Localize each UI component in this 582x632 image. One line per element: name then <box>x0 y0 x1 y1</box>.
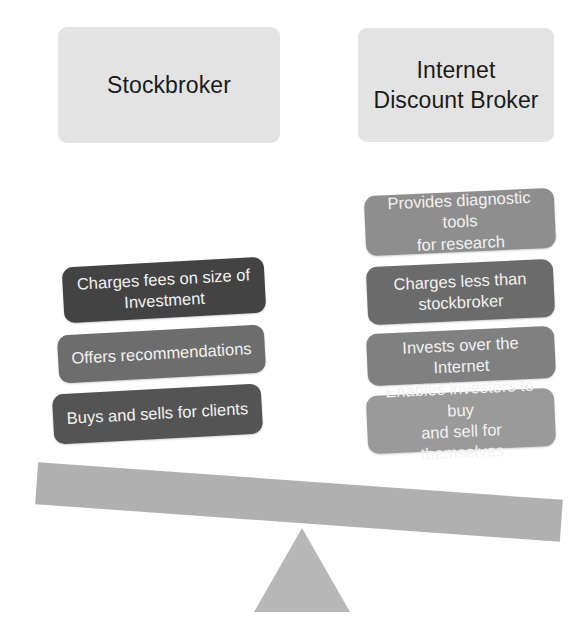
chip-right-3-line-2: and sell for themselves <box>420 420 504 463</box>
chip-left-charges-fees: Charges fees on size of Investment <box>62 257 267 324</box>
header-card-internet-discount-broker-label: Internet Discount Broker <box>358 55 554 116</box>
chip-right-charges-less-than-stockbroker: Charges less than stockbroker <box>366 259 555 325</box>
chip-right-1-line-1: Charges less than <box>393 269 527 293</box>
chip-right-provides-diagnostic-tools: Provides diagnostic tools for research <box>364 188 557 257</box>
chip-right-0-line-1: Provides diagnostic tools <box>387 188 531 231</box>
chip-left-offers-recommendations: Offers recommendations <box>57 324 266 383</box>
chip-right-3-label: Enables investors to buy and sell for th… <box>377 374 545 467</box>
chip-left-1-label: Offers recommendations <box>70 338 254 369</box>
chip-right-1-line-2: stockbroker <box>418 291 504 313</box>
chip-left-buys-and-sells: Buys and sells for clients <box>52 383 263 444</box>
chip-right-enables-investors: Enables investors to buy and sell for th… <box>366 388 556 454</box>
chip-right-1-label: Charges less than stockbroker <box>378 267 543 317</box>
chip-right-3-line-1: Enables investors to buy <box>385 376 534 419</box>
chip-left-0-line-1: Charges fees on size of <box>76 265 250 292</box>
chip-right-2-label: Invests over the Internet <box>378 331 544 381</box>
diagram-canvas: Stockbroker Internet Discount Broker Cha… <box>0 0 582 632</box>
header-right-line-1: Internet <box>417 57 496 83</box>
chip-left-0-line-2: Investment <box>124 289 206 311</box>
header-card-stockbroker-label: Stockbroker <box>58 70 280 100</box>
header-card-stockbroker: Stockbroker <box>58 27 280 143</box>
chip-right-0-line-2: for research <box>417 232 506 254</box>
header-card-internet-discount-broker: Internet Discount Broker <box>358 28 554 142</box>
chip-right-0-label: Provides diagnostic tools for research <box>376 186 545 258</box>
fulcrum-triangle-icon <box>254 528 350 612</box>
chip-left-2-label: Buys and sells for clients <box>65 398 251 429</box>
header-right-line-2: Discount Broker <box>373 87 538 113</box>
chip-left-0-label: Charges fees on size of Investment <box>74 264 254 316</box>
